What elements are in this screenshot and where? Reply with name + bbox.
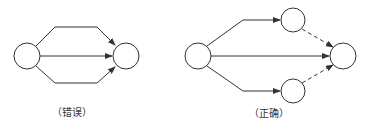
edge-top-end-dummy: [302, 29, 333, 47]
node-start: [14, 43, 40, 69]
edge-upper: [36, 27, 115, 46]
node-end: [330, 43, 356, 69]
edge-start-top: [207, 20, 280, 46]
node-top: [281, 8, 305, 32]
edge-bottom-end-dummy: [302, 65, 333, 83]
node-end: [113, 43, 139, 69]
node-bottom: [281, 79, 305, 103]
caption-wrong: （错误）: [52, 104, 92, 119]
caption-correct: （正确）: [249, 105, 289, 120]
node-start: [185, 43, 211, 69]
diagram-correct: [185, 8, 356, 103]
diagram-wrong: [14, 27, 139, 83]
edge-lower: [36, 66, 115, 83]
edge-start-bottom: [207, 66, 280, 91]
